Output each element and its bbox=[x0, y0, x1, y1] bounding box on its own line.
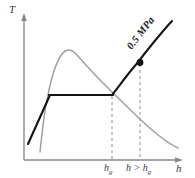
y-axis-arrowhead bbox=[21, 13, 27, 21]
vapor-dome-curve bbox=[40, 50, 178, 152]
superheated-state-point-marker bbox=[137, 59, 144, 66]
isobar-subcooled-segment bbox=[28, 95, 50, 144]
diagram-canvas bbox=[0, 0, 195, 178]
tick-label-hg: hg bbox=[104, 163, 113, 176]
tick-hg-subscript: g bbox=[109, 168, 113, 176]
tick-h-gt-hg-subscript: g bbox=[148, 168, 152, 176]
th-diagram-figure: T h hg h > hg 0.5 MPa bbox=[0, 0, 195, 178]
tick-h-gt-hg-text: h > h bbox=[126, 162, 148, 173]
y-axis-label: T bbox=[9, 4, 15, 15]
x-axis-label: h bbox=[176, 163, 182, 174]
isobar-curve-group bbox=[28, 21, 172, 144]
tick-label-h-greater-than-hg: h > hg bbox=[126, 163, 151, 176]
